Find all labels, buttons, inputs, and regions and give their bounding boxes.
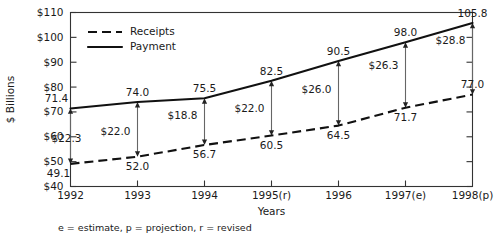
y-tick-label: $80: [43, 81, 63, 93]
gap-arrow-head-down: [202, 140, 207, 145]
receipts-value-label: 71.7: [394, 111, 417, 123]
y-axis-title: $ Billions: [4, 76, 16, 123]
legend-label-payment: Payment: [130, 40, 176, 52]
x-tick-label: 1997(e): [385, 189, 426, 201]
x-axis-title: Years: [257, 205, 286, 217]
gap-arrow-head-down: [135, 151, 140, 156]
x-tick-label: 1995(r): [252, 189, 291, 201]
x-tick-label: 1993: [124, 189, 151, 201]
receipts-value-label: 52.0: [126, 160, 149, 172]
y-tick-label: $50: [43, 155, 63, 167]
gap-value-label: $26.0: [301, 83, 331, 95]
receipts-value-label: 77.0: [461, 78, 484, 90]
x-tick-label: 1996: [325, 189, 352, 201]
chart-figure: $40$50$60$70$80$90$100$110$ Billions1992…: [0, 0, 503, 239]
legend-label-receipts: Receipts: [130, 25, 175, 37]
x-tick-label: 1992: [57, 189, 84, 201]
payment-value-label: 75.5: [193, 82, 216, 94]
chart-footnote: e = estimate, p = projection, r = revise…: [58, 222, 252, 233]
receipts-value-label: 49.1: [47, 167, 70, 179]
legend: ReceiptsPayment: [88, 25, 176, 52]
y-tick-label: $110: [37, 6, 64, 18]
gap-value-label: $26.3: [368, 59, 398, 71]
gap-value-label: $22.3: [51, 132, 81, 144]
x-tick-label: 1998(p): [452, 189, 494, 201]
receipts-value-label: 60.5: [260, 139, 283, 151]
gap-value-label: $22.0: [100, 125, 130, 137]
y-tick-label: $100: [37, 31, 64, 43]
receipts-value-label: 64.5: [327, 129, 350, 141]
payment-value-label: 105.8: [457, 7, 487, 19]
gap-label-group: $22.3$22.0$18.8$22.0$26.0$26.3$28.8: [51, 34, 465, 143]
y-tick-label: $70: [43, 105, 63, 117]
payment-value-label: 98.0: [394, 26, 417, 38]
y-tick-label: $90: [43, 56, 63, 68]
gap-value-label: $22.0: [234, 102, 264, 114]
receipts-value-label: 56.7: [193, 148, 216, 160]
gap-arrow-head-down: [470, 89, 475, 94]
gap-value-label: $28.8: [435, 34, 465, 46]
payment-value-label: 90.5: [327, 45, 350, 57]
payment-value-label: 71.4: [45, 92, 69, 104]
gap-value-label: $18.8: [167, 109, 197, 121]
chart-svg: $40$50$60$70$80$90$100$110$ Billions1992…: [0, 0, 503, 239]
x-tick-label: 1994: [191, 189, 218, 201]
payment-value-label: 82.5: [260, 65, 283, 77]
payment-value-labels: 71.474.075.582.590.598.0105.8: [45, 7, 488, 105]
payment-value-label: 74.0: [126, 86, 149, 98]
x-axis: 1992199319941995(r)19961997(e)1998(p): [57, 181, 493, 201]
